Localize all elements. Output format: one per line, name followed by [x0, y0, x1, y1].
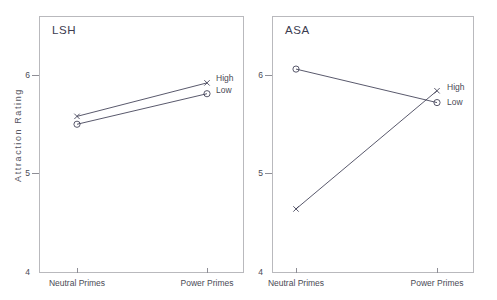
y-axis-label: Attraction Rating	[13, 65, 23, 205]
panel-title-asa: ASA	[285, 24, 310, 36]
x-tick-label-lsh-neutral: Neutral Primes	[49, 278, 105, 288]
y-tick-mark-lsh-5	[32, 173, 39, 174]
x-tick-label-lsh-power: Power Primes	[181, 278, 234, 288]
y-tick-label-lsh-5: 5	[14, 168, 30, 178]
x-tick-label-asa-power: Power Primes	[411, 278, 464, 288]
plot-frame-lsh	[39, 16, 244, 273]
y-tick-label-asa-5: 5	[247, 168, 263, 178]
series-label-asa-high: High	[447, 82, 464, 92]
y-tick-label-asa-6: 6	[247, 70, 263, 80]
series-label-asa-low: Low	[447, 97, 463, 107]
y-tick-mark-asa-5	[265, 173, 272, 174]
x-tick-mark-asa-neutral	[296, 268, 297, 273]
x-tick-mark-lsh-power	[207, 268, 208, 273]
series-label-lsh-low: Low	[216, 85, 232, 95]
x-tick-label-asa-neutral: Neutral Primes	[268, 278, 324, 288]
y-tick-label-lsh-6: 6	[14, 70, 30, 80]
plot-frame-asa	[272, 16, 474, 273]
y-tick-mark-asa-6	[265, 75, 272, 76]
y-tick-mark-lsh-6	[32, 75, 39, 76]
x-tick-mark-asa-power	[437, 268, 438, 273]
figure-container: Attraction Rating LSH 6 5 4 Neutral Prim…	[0, 0, 497, 300]
panel-title-lsh: LSH	[52, 24, 76, 36]
series-label-lsh-high: High	[216, 73, 233, 83]
x-tick-mark-lsh-neutral	[77, 268, 78, 273]
y-tick-label-lsh-4: 4	[14, 267, 30, 277]
y-tick-label-asa-4: 4	[247, 267, 263, 277]
